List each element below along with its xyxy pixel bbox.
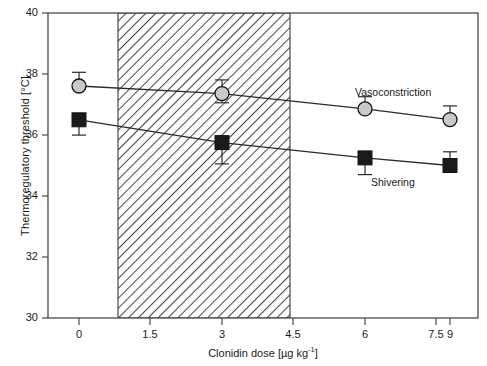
y-axis-ticks: [42, 13, 48, 318]
x-axis-title: Clonidin dose [µg kg-1]: [48, 345, 478, 359]
y-axis-title: Thermoregulatory threshold [°C]: [19, 41, 31, 271]
x-tick-label-0: 0: [59, 328, 99, 340]
x-axis-title-exponent: -1: [308, 345, 315, 354]
x-tick-label-9: 9: [430, 328, 470, 340]
y-tick-label-40: 40: [4, 6, 38, 18]
x-axis-title-main: Clonidin dose [µg kg: [208, 347, 308, 359]
x-tick-label-4-5: 4.5: [273, 328, 313, 340]
x-axis-ticks: [79, 318, 450, 325]
vasoconstriction-series-label: Vasoconstriction: [355, 86, 431, 98]
x-axis-title-tail: ]: [315, 347, 318, 359]
x-tick-label-6: 6: [345, 328, 385, 340]
x-tick-label-3: 3: [202, 328, 242, 340]
x-tick-label-1-5: 1.5: [130, 328, 170, 340]
y-tick-label-30: 30: [4, 311, 38, 323]
chart-figure: 40 38 36 34 32 30 0 1.5 3 4.5 6 7.5 9 Th…: [0, 0, 487, 366]
shivering-series-label: Shivering: [371, 176, 415, 188]
hatched-band: [118, 13, 290, 318]
